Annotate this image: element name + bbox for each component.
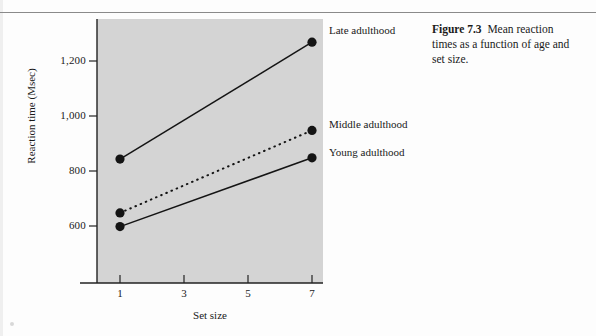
x-tick-label-7: 7 [300,288,324,299]
series-line-young-adulthood [120,158,312,227]
data-point-young-1 [115,222,124,231]
y-tick-label-wrap-600: 600 [30,220,86,231]
y-tick-label-wrap-1200: 1,200 [30,55,86,66]
page-canvas: 1,200 1,000 800 600 1 3 5 7 Reaction tim… [0,0,596,336]
data-point-late-1 [115,155,124,164]
x-tick-label-5: 5 [236,288,260,299]
y-tick-label-wrap-1000: 1,000 [30,110,86,121]
y-tick-label-1200: 1,200 [40,55,86,66]
figure-chart: 1,200 1,000 800 600 1 3 5 7 Reaction tim… [0,0,420,336]
series-label-late-adulthood: Late adulthood [329,24,395,36]
y-tick-label-600: 600 [40,220,86,231]
series-line-middle-adulthood [120,130,312,213]
y-axis-title: Reaction time (Msec) [25,41,37,191]
figure-caption-number: Figure 7.3 [432,23,482,35]
y-tick-label-wrap-800: 800 [30,165,86,176]
figure-caption: Figure 7.3 Mean reaction times as a func… [432,22,572,67]
x-tick-label-1: 1 [108,288,132,299]
data-point-young-7 [307,153,316,162]
data-point-late-7 [307,38,316,47]
series-label-young-adulthood: Young adulthood [329,146,405,158]
y-tick-label-1000: 1,000 [40,110,86,121]
series-line-late-adulthood [120,42,312,159]
x-tick-label-3: 3 [172,288,196,299]
x-axis-title: Set size [97,309,323,321]
series-label-middle-adulthood: Middle adulthood [329,118,408,130]
data-point-middle-1 [115,208,124,217]
data-point-middle-7 [307,126,316,135]
y-tick-label-800: 800 [40,165,86,176]
